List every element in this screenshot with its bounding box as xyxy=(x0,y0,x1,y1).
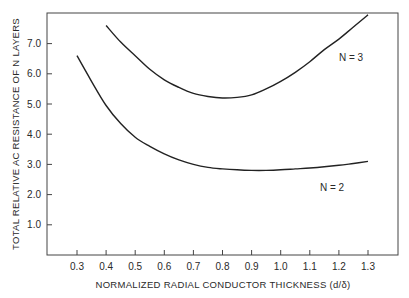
x-tick-label: 0.9 xyxy=(245,261,259,272)
y-tick-label: 3.0 xyxy=(27,159,41,170)
x-tick-label: 1.0 xyxy=(274,261,288,272)
y-axis-title: TOTAL RELATIVE AC RESISTANCE OF N LAYERS xyxy=(10,18,21,250)
x-tick-label: 1.3 xyxy=(361,261,375,272)
series-line-n2 xyxy=(77,56,368,171)
x-tick-label: 1.2 xyxy=(332,261,346,272)
y-tick-label: 4.0 xyxy=(27,129,41,140)
x-tick-label: 0.3 xyxy=(70,261,84,272)
y-axis-ticks: 1.02.03.04.05.06.07.0 xyxy=(27,38,52,230)
x-tick-label: 0.7 xyxy=(186,261,200,272)
series-label-n3: N = 3 xyxy=(339,52,364,63)
y-tick-label: 5.0 xyxy=(27,99,41,110)
x-axis-title: NORMALIZED RADIAL CONDUCTOR THICKNESS (d… xyxy=(95,279,350,290)
x-tick-label: 1.1 xyxy=(303,261,317,272)
y-tick-label: 1.0 xyxy=(27,219,41,230)
x-tick-label: 0.8 xyxy=(216,261,230,272)
y-tick-label: 6.0 xyxy=(27,68,41,79)
plot-frame xyxy=(47,13,398,255)
x-tick-label: 0.6 xyxy=(157,261,171,272)
y-tick-label: 2.0 xyxy=(27,189,41,200)
chart: 1.02.03.04.05.06.07.0 0.30.40.50.60.70.8… xyxy=(0,0,409,298)
series-lines xyxy=(77,15,368,171)
x-axis-ticks: 0.30.40.50.60.70.80.91.01.11.21.3 xyxy=(70,250,375,272)
series-label-n2: N = 2 xyxy=(320,182,345,193)
x-tick-label: 0.5 xyxy=(128,261,142,272)
x-tick-label: 0.4 xyxy=(99,261,113,272)
series-line-n3 xyxy=(106,15,368,98)
y-tick-label: 7.0 xyxy=(27,38,41,49)
